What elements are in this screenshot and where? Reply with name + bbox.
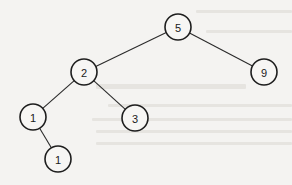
node-label: 2 [81, 67, 87, 79]
tree-node: 1 [45, 146, 71, 172]
tree-edge [190, 33, 253, 66]
tree-node: 2 [71, 59, 97, 85]
tree-edge [43, 81, 75, 109]
node-label: 1 [30, 112, 36, 124]
node-label: 9 [261, 67, 267, 79]
node-label: 5 [175, 22, 181, 34]
tree-edge [40, 128, 52, 148]
tree-node: 5 [165, 14, 191, 40]
node-label: 3 [132, 113, 138, 125]
tree-nodes: 529131 [20, 14, 277, 172]
tree-node: 3 [122, 105, 148, 131]
tree-node: 9 [251, 59, 277, 85]
binary-tree-diagram: 529131 [0, 0, 292, 185]
tree-edges [40, 33, 253, 148]
scanned-page: 529131 [0, 0, 292, 185]
tree-edge [94, 81, 126, 110]
tree-node: 1 [20, 104, 46, 130]
node-label: 1 [55, 154, 61, 166]
tree-edge [96, 33, 167, 67]
